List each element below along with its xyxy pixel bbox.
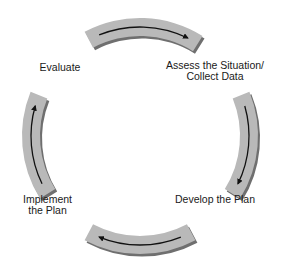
step-label-implement: Implement the Plan — [10, 194, 85, 216]
arc-left-band — [22, 92, 55, 199]
arc-bottom — [85, 224, 198, 256]
arc-right — [225, 92, 260, 201]
arc-top — [85, 18, 205, 54]
cycle-diagram — [0, 0, 284, 260]
step-label-develop: Develop the Plan — [160, 194, 270, 205]
step-label-evaluate: Evaluate — [30, 62, 90, 73]
step-label-assess: Assess the Situation/ Collect Data — [155, 60, 275, 82]
arc-right-band — [225, 92, 258, 199]
arc-left — [22, 92, 57, 201]
